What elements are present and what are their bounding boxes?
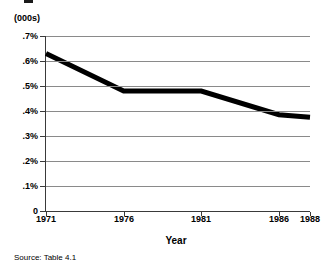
x-axis-line (45, 211, 310, 212)
gridline (46, 136, 310, 137)
gridline (46, 161, 310, 162)
y-axis-tick (40, 186, 45, 187)
gridline (46, 61, 310, 62)
y-axis-tick-label: .5% (22, 81, 38, 91)
x-axis-tick-label: 1981 (191, 214, 211, 224)
x-axis-title-text: Year (139, 235, 186, 246)
x-axis-tick-label: 1986 (269, 214, 289, 224)
y-axis-tick-label: .6% (22, 56, 38, 66)
y-axis-tick (40, 161, 45, 162)
source-note: Source: Table 4.1 (14, 253, 76, 262)
gridline (46, 111, 310, 112)
y-axis-tick (40, 86, 45, 87)
y-axis-tick-label: .1% (22, 181, 38, 191)
y-axis-labels: 0.1%.2%.3%.4%.5%.6%.7% (8, 36, 38, 211)
y-axis-tick-label: .2% (22, 156, 38, 166)
x-axis-tick-label: 1971 (36, 214, 56, 224)
x-axis-tick-label: 1976 (114, 214, 134, 224)
y-axis-tick-label: .4% (22, 106, 38, 116)
gridline (46, 86, 310, 87)
y-axis-tick (40, 36, 45, 37)
y-axis-tick-label: .7% (22, 31, 38, 41)
gridline (46, 186, 310, 187)
units-label: (000s) (14, 13, 40, 23)
cropped-title-fragment (24, 0, 33, 3)
line-series (46, 36, 310, 211)
gridline (46, 36, 310, 37)
x-axis-title: Year (0, 235, 326, 246)
y-axis-tick (40, 111, 45, 112)
y-axis-tick-label: .3% (22, 131, 38, 141)
plot-area (46, 36, 310, 211)
x-axis-tick-label: 1988 (300, 214, 320, 224)
y-axis-tick (40, 136, 45, 137)
y-axis-tick (40, 61, 45, 62)
y-axis-tick (40, 211, 45, 212)
